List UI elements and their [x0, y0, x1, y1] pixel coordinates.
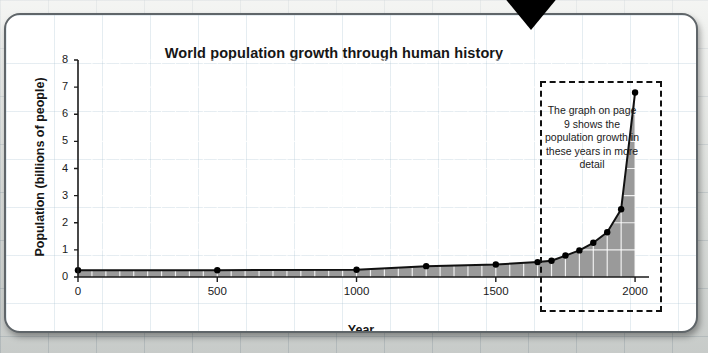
data-point-marker	[590, 240, 596, 246]
y-axis-tick-label: 5	[46, 134, 68, 146]
y-axis-tick-label: 6	[46, 107, 68, 119]
data-point-marker	[576, 247, 582, 253]
data-point-marker	[353, 266, 359, 272]
x-axis-tick-label: 0	[48, 285, 108, 297]
chart-plot-area	[6, 15, 696, 331]
y-axis-tick-label: 7	[46, 80, 68, 92]
y-axis-tick-label: 4	[46, 162, 68, 174]
data-point-marker	[632, 89, 638, 95]
x-axis-tick-label: 1000	[327, 285, 387, 297]
x-axis-tick-label: 2000	[605, 285, 665, 297]
book-page-panel: World population growth through human hi…	[4, 13, 698, 333]
data-point-marker	[618, 206, 624, 212]
y-axis-tick-label: 0	[46, 270, 68, 282]
x-axis-tick-label: 1500	[466, 285, 526, 297]
data-point-marker	[562, 252, 568, 258]
data-point-marker	[534, 259, 540, 265]
data-point-marker	[548, 258, 554, 264]
y-axis-tick-label: 3	[46, 189, 68, 201]
x-axis-tick-label: 500	[187, 285, 247, 297]
data-point-marker	[604, 229, 610, 235]
callout-annotation-text: The graph on page 9 shows the population…	[544, 104, 640, 172]
down-arrow-icon	[503, 0, 559, 30]
y-axis-tick-label: 1	[46, 243, 68, 255]
y-axis-tick-label: 2	[46, 216, 68, 228]
data-point-marker	[423, 263, 429, 269]
data-point-marker	[493, 261, 499, 267]
data-point-marker	[214, 267, 220, 273]
y-axis-tick-label: 8	[46, 53, 68, 65]
